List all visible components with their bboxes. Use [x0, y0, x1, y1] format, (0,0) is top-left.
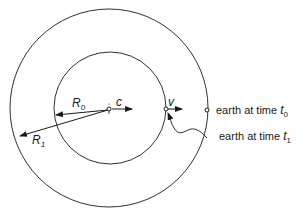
earth-t0-label: earth at time t0: [216, 103, 289, 119]
v-label: v: [168, 95, 175, 109]
r0-label: R0: [72, 96, 86, 112]
earth-t0-point: [205, 108, 209, 112]
wavefront-diagram: R0 R1 c v earth at time t0 earth at time…: [0, 0, 307, 214]
earth-t1-leader: [168, 113, 207, 138]
center-dot: [108, 103, 109, 104]
center-point: [107, 107, 111, 111]
c-label: c: [116, 95, 122, 109]
r1-label: R1: [32, 133, 45, 149]
earth-t1-label: earth at time t1: [219, 129, 292, 145]
